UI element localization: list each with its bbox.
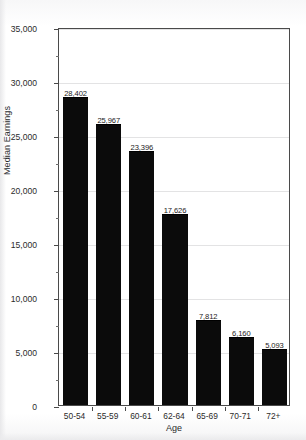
bar: [229, 337, 254, 405]
x-axis-tick-label: 62-64: [157, 411, 190, 421]
x-axis-tick-label: 72+: [257, 411, 290, 421]
y-axis-tick-label: 20,000: [0, 186, 37, 196]
bar-value-label: 25,967: [90, 116, 127, 125]
y-axis-minor-tick: [56, 380, 59, 381]
y-axis-minor-tick: [56, 272, 59, 273]
y-axis-tick: [54, 191, 59, 192]
bar-value-label: 6,160: [223, 329, 260, 338]
y-axis-tick: [54, 353, 59, 354]
bar-value-label: 17,626: [156, 206, 193, 215]
bar: [196, 320, 221, 405]
x-axis-tick-label: 70-71: [224, 411, 257, 421]
y-axis-tick-label: 25,000: [0, 132, 37, 142]
scan-edge-shadow-bottom: [0, 433, 306, 440]
bar: [262, 349, 287, 405]
chart-page: Median Earnings 05,00010,00015,00020,000…: [0, 0, 306, 440]
y-axis-minor-tick: [56, 164, 59, 165]
bar-value-label: 23,396: [123, 143, 160, 152]
bar: [63, 97, 88, 405]
y-axis-minor-tick: [56, 110, 59, 111]
plot-area: 05,00010,00015,00020,00025,00030,00035,0…: [58, 28, 290, 406]
y-axis-tick: [54, 29, 59, 30]
y-axis-tick: [54, 83, 59, 84]
y-axis-minor-tick: [56, 56, 59, 57]
bar-value-label: 28,402: [57, 89, 94, 98]
x-axis-tick-label: 55-59: [91, 411, 124, 421]
y-axis-tick-label: 10,000: [0, 294, 37, 304]
y-axis-tick: [54, 245, 59, 246]
y-axis-tick-label: 0: [0, 402, 37, 412]
y-axis-tick-label: 30,000: [0, 78, 37, 88]
y-axis-tick-label: 15,000: [0, 240, 37, 250]
x-axis-title: Age: [58, 423, 290, 433]
bar: [96, 124, 121, 405]
y-axis-tick: [54, 299, 59, 300]
x-axis-tick-label: 60-61: [124, 411, 157, 421]
y-axis-tick: [54, 407, 59, 408]
scan-edge-shadow-left: [0, 0, 6, 440]
bar-value-label: 7,812: [190, 312, 227, 321]
x-axis-tick-label: 65-69: [191, 411, 224, 421]
gridline: [59, 191, 289, 192]
y-axis-minor-tick: [56, 326, 59, 327]
y-axis-tick-label: 5,000: [0, 348, 37, 358]
bar: [129, 151, 154, 405]
bar-value-label: 5,093: [256, 341, 293, 350]
gridline: [59, 137, 289, 138]
y-axis-tick-label: 35,000: [0, 24, 37, 34]
gridline: [59, 29, 289, 30]
x-axis-tick-label: 50-54: [58, 411, 91, 421]
y-axis-minor-tick: [56, 218, 59, 219]
bar: [162, 214, 187, 405]
gridline: [59, 83, 289, 84]
chart-title: [0, 0, 306, 4]
y-axis-tick: [54, 137, 59, 138]
